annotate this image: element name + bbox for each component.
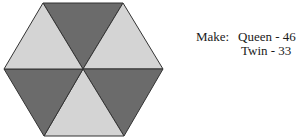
hexagon-diagram — [0, 0, 170, 140]
queen-count: Queen - 46 — [238, 30, 296, 44]
twin-count: Twin - 33 — [241, 44, 291, 58]
make-label: Make: — [196, 30, 229, 44]
